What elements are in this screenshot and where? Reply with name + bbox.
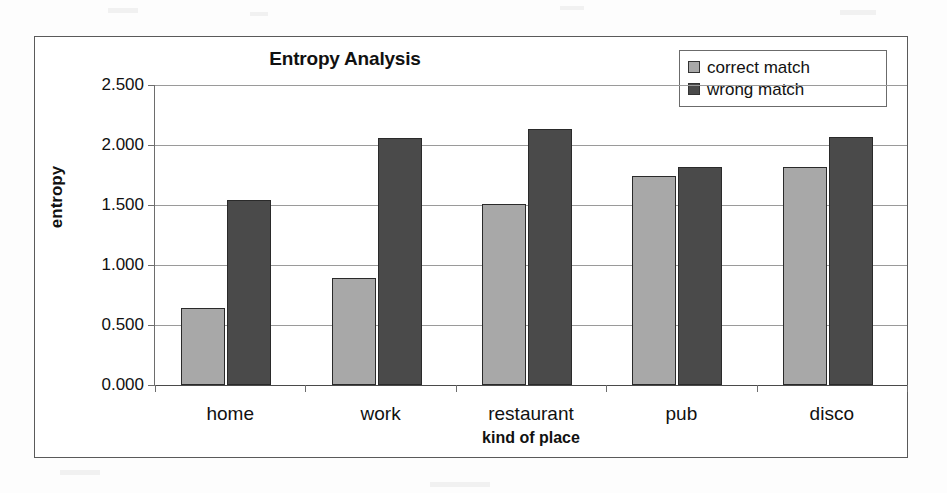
x-tick-mark <box>155 385 156 392</box>
x-category-label-pub: pub <box>606 403 756 425</box>
gridline <box>155 85 907 86</box>
y-tick-mark <box>148 265 155 266</box>
x-category-label-restaurant: restaurant <box>456 403 606 425</box>
y-tick-label: 0.500 <box>101 315 144 335</box>
y-tick-mark <box>148 385 155 386</box>
bar-pub-correct-match <box>632 176 676 385</box>
y-axis-title: entropy <box>47 166 67 228</box>
bar-work-wrong-match <box>378 138 422 385</box>
chart-frame: Entropy Analysis correct match wrong mat… <box>34 36 908 458</box>
y-tick-label: 1.000 <box>101 255 144 275</box>
x-category-label-home: home <box>155 403 305 425</box>
legend-item-correct-match: correct match <box>688 56 878 78</box>
bar-restaurant-correct-match <box>482 204 526 385</box>
y-tick-label: 0.000 <box>101 375 144 395</box>
x-tick-mark <box>305 385 306 392</box>
y-tick-label: 1.500 <box>101 195 144 215</box>
bar-pub-wrong-match <box>678 167 722 385</box>
y-axis-line <box>154 85 155 386</box>
legend-label-correct-match: correct match <box>707 59 810 76</box>
x-axis-title: kind of place <box>155 429 907 447</box>
y-tick-mark <box>148 145 155 146</box>
bar-home-wrong-match <box>227 200 271 385</box>
x-category-label-disco: disco <box>757 403 907 425</box>
bar-work-correct-match <box>332 278 376 385</box>
y-tick-mark <box>148 85 155 86</box>
legend-swatch-correct-match <box>688 61 700 73</box>
x-category-label-work: work <box>305 403 455 425</box>
x-tick-mark <box>757 385 758 392</box>
x-tick-mark <box>907 385 908 392</box>
y-tick-label: 2.000 <box>101 135 144 155</box>
bar-disco-wrong-match <box>829 137 873 385</box>
y-tick-label: 2.500 <box>101 75 144 95</box>
y-tick-mark <box>148 205 155 206</box>
gridline <box>155 385 907 386</box>
bar-disco-correct-match <box>783 167 827 385</box>
chart-title: Entropy Analysis <box>35 48 655 70</box>
bar-restaurant-wrong-match <box>528 129 572 385</box>
y-tick-mark <box>148 325 155 326</box>
bar-home-correct-match <box>181 308 225 385</box>
plot-area: 2.5002.0001.5001.0000.5000.000 homeworkr… <box>155 85 907 385</box>
x-tick-mark <box>456 385 457 392</box>
x-tick-mark <box>606 385 607 392</box>
